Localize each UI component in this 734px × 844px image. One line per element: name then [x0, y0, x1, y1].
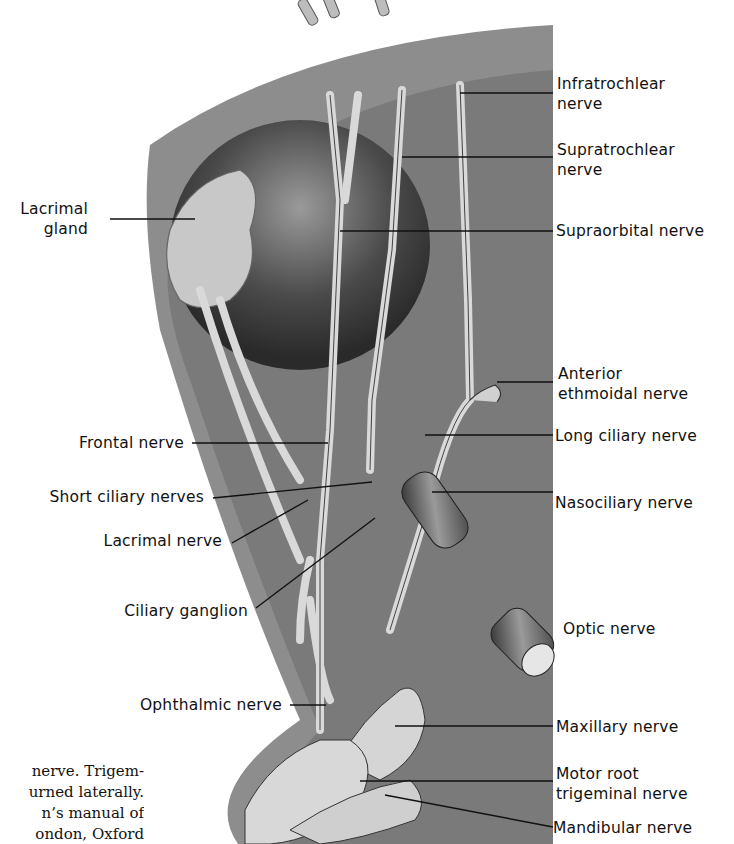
label-supratrochlear-nerve: Supratrochlear nerve: [557, 140, 675, 180]
emerging-nerve-stubs: [297, 0, 390, 27]
label-nasociliary-nerve: Nasociliary nerve: [555, 493, 693, 513]
label-supraorbital-nerve: Supraorbital nerve: [556, 221, 704, 241]
label-infratrochlear-nerve: Infratrochlear nerve: [557, 74, 665, 114]
label-ophthalmic-nerve: Ophthalmic nerve: [140, 695, 282, 715]
label-mandibular-nerve: Mandibular nerve: [553, 818, 692, 838]
label-long-ciliary-nerve: Long ciliary nerve: [555, 426, 697, 446]
label-frontal-nerve: Frontal nerve: [79, 433, 184, 453]
label-lacrimal-nerve: Lacrimal nerve: [104, 531, 222, 551]
label-anterior-ethmoidal-nerve: Anterior ethmoidal nerve: [558, 364, 688, 404]
figure-caption: nerve. Trigem- urned laterally. n’s manu…: [0, 761, 144, 844]
label-ciliary-ganglion: Ciliary ganglion: [124, 601, 248, 621]
label-short-ciliary-nerves: Short ciliary nerves: [50, 487, 204, 507]
label-optic-nerve: Optic nerve: [563, 619, 656, 639]
label-maxillary-nerve: Maxillary nerve: [556, 717, 678, 737]
label-lacrimal-gland: Lacrimal gland: [20, 199, 88, 239]
label-motor-root-trigeminal-nerve: Motor root trigeminal nerve: [556, 764, 688, 804]
